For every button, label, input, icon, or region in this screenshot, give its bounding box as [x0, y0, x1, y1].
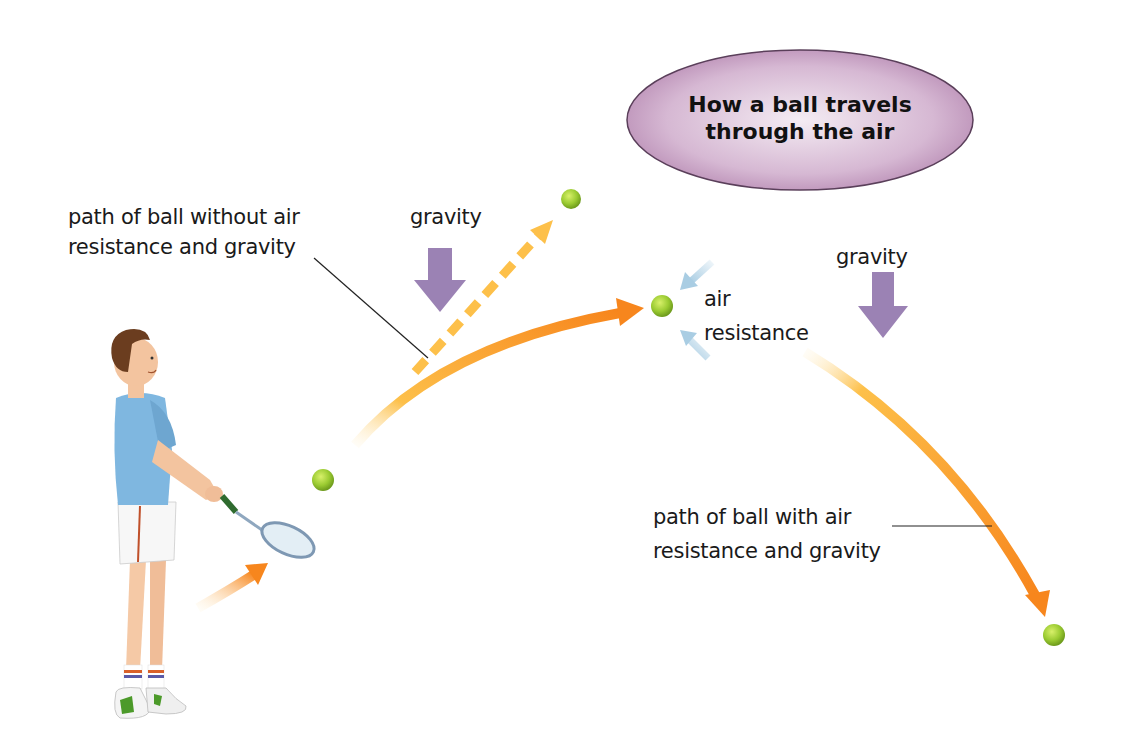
curved-path-rising	[355, 298, 644, 445]
label-with-air-line-2: resistance and gravity	[653, 534, 881, 568]
gravity-arrow-right	[858, 272, 908, 338]
ball-landing	[1043, 624, 1065, 646]
title-text: How a ball travels through the air	[625, 48, 975, 188]
ball-without-air-end	[561, 189, 581, 209]
leader-line-without-air	[314, 258, 428, 358]
curved-path-falling	[805, 352, 1050, 617]
title-line-2: through the air	[706, 118, 895, 145]
label-without-air-line-1: path of ball without air	[68, 202, 300, 232]
label-without-air: path of ball without air resistance and …	[68, 202, 300, 262]
label-gravity-right: gravity	[836, 242, 908, 272]
label-with-air: path of ball with air resistance and gra…	[653, 500, 881, 568]
label-air-resistance-line-1: air	[704, 282, 809, 316]
swing-arrow	[198, 563, 268, 608]
label-air-resistance-line-2: resistance	[704, 316, 809, 350]
label-with-air-line-1: path of ball with air	[653, 500, 881, 534]
ball-at-peak	[651, 295, 673, 317]
gravity-arrow-left	[414, 248, 466, 312]
label-without-air-line-2: resistance and gravity	[68, 232, 300, 262]
tennis-player	[111, 329, 319, 718]
ball-at-racket	[312, 469, 334, 491]
title-line-1: How a ball travels	[688, 91, 911, 118]
label-air-resistance: air resistance	[704, 282, 809, 350]
label-gravity-left: gravity	[410, 202, 482, 232]
